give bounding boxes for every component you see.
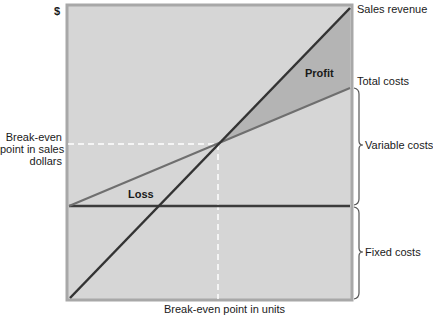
sales-revenue-label: Sales revenue — [357, 3, 427, 15]
y-axis-label: $ — [54, 5, 60, 17]
breakeven-sales-line-2: point in sales — [0, 143, 62, 155]
total-costs-label: Total costs — [357, 75, 409, 87]
fixed-costs-brace — [354, 207, 363, 299]
breakeven-sales-line-3: dollars — [0, 155, 62, 167]
breakeven-sales-label: Break-even point in sales dollars — [0, 131, 62, 167]
variable-costs-label: Variable costs — [365, 139, 433, 151]
x-axis-label: Break-even point in units — [164, 303, 285, 315]
breakeven-sales-line-1: Break-even — [0, 131, 62, 143]
variable-costs-brace — [354, 88, 363, 205]
loss-label: Loss — [128, 188, 154, 200]
fixed-costs-label: Fixed costs — [365, 246, 421, 258]
profit-label: Profit — [305, 67, 334, 79]
